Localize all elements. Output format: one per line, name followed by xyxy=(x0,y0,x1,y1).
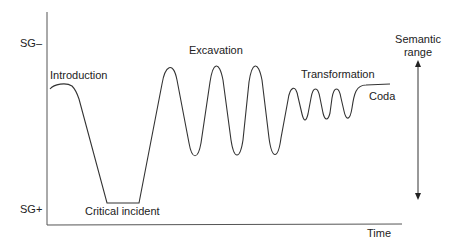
semantic-range-label: Semantic range xyxy=(395,33,441,59)
semantic-wave-diagram xyxy=(0,0,454,250)
semantic-wave-curve xyxy=(50,66,390,203)
phase-label-transformation: Transformation xyxy=(301,68,375,81)
semantic-range-label-line2: range xyxy=(395,46,441,59)
x-axis xyxy=(47,224,402,225)
y-axis-top-label: SG– xyxy=(20,37,42,50)
phase-label-critical-incident: Critical incident xyxy=(85,205,160,218)
phase-label-excavation: Excavation xyxy=(189,44,243,57)
arrow-up-icon xyxy=(415,60,421,67)
x-axis-label: Time xyxy=(367,227,391,240)
arrow-down-icon xyxy=(415,193,421,200)
semantic-range-label-line1: Semantic xyxy=(395,33,441,46)
phase-label-coda: Coda xyxy=(369,90,395,103)
phase-label-introduction: Introduction xyxy=(50,69,107,82)
y-axis-bottom-label: SG+ xyxy=(20,203,42,216)
